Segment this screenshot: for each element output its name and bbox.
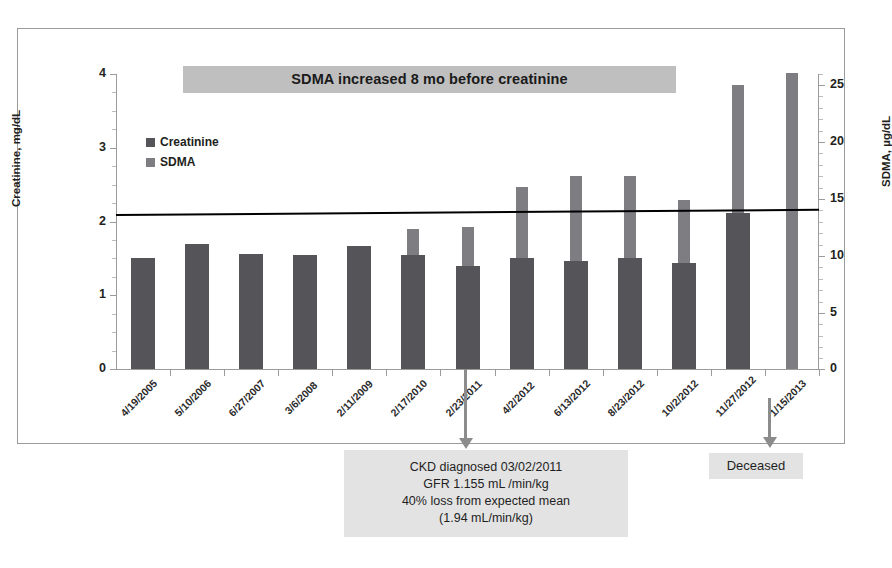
- y2-tick-label: 25: [830, 78, 856, 91]
- ckd-note-line-3: 40% loss from expected mean: [350, 493, 622, 510]
- x-axis-line: [116, 369, 819, 370]
- left-tick-0: [110, 369, 116, 370]
- right-tick-5: [819, 313, 825, 314]
- right-minor-tick: [819, 210, 823, 211]
- right-minor-tick: [819, 108, 823, 109]
- x-axis-label: 6/13/2012: [551, 379, 591, 419]
- bar-creatinine: [185, 244, 209, 369]
- right-minor-tick: [819, 245, 823, 246]
- y-tick-label: 0: [80, 362, 106, 375]
- bar-creatinine: [726, 213, 750, 369]
- right-minor-tick: [819, 131, 823, 132]
- y2-tick-label: 0: [830, 362, 856, 375]
- bar-creatinine: [672, 263, 696, 369]
- right-minor-tick: [819, 290, 823, 291]
- y-tick-label: 4: [80, 67, 106, 80]
- deceased-arrow-shaft: [768, 398, 771, 442]
- x-axis-label: 8/23/2012: [605, 379, 645, 419]
- y2-axis-title: SDMA, µg/dL: [880, 116, 892, 187]
- right-tick-25: [819, 85, 825, 86]
- bar-creatinine: [293, 255, 317, 369]
- bar-creatinine: [401, 255, 425, 369]
- right-minor-tick: [819, 358, 823, 359]
- right-minor-tick: [819, 347, 823, 348]
- right-minor-tick: [819, 336, 823, 337]
- x-axis-label: 1/15/2013: [767, 379, 807, 419]
- y2-tick-label: 20: [830, 135, 856, 148]
- x-axis-label: 2/11/2009: [334, 379, 374, 419]
- x-axis-label: 2/17/2010: [388, 379, 428, 419]
- ckd-note-line-1: CKD diagnosed 03/02/2011: [350, 459, 622, 476]
- right-tick-20: [819, 142, 825, 143]
- right-minor-tick: [819, 302, 823, 303]
- right-tick-15: [819, 199, 825, 200]
- ckd-arrow-shaft: [464, 368, 467, 444]
- bar-creatinine: [618, 258, 642, 369]
- x-axis-label: 3/6/2008: [280, 379, 320, 419]
- x-axis-label: 5/10/2006: [172, 379, 212, 419]
- right-minor-tick: [819, 233, 823, 234]
- bar-creatinine: [239, 254, 263, 369]
- deceased-note-box: Deceased: [709, 453, 803, 479]
- chart-frame: SDMA increased 8 mo before creatinine 4 …: [17, 28, 845, 444]
- right-minor-tick: [819, 267, 823, 268]
- right-minor-tick: [819, 165, 823, 166]
- bar-creatinine: [510, 258, 534, 369]
- right-tick-10: [819, 256, 825, 257]
- y-axis-title: Creatinine, mg/dL: [10, 110, 22, 207]
- ckd-note-line-2: GFR 1.155 mL /min/kg: [350, 476, 622, 493]
- right-minor-tick: [819, 119, 823, 120]
- bar-creatinine: [456, 266, 480, 369]
- bar-creatinine: [347, 246, 371, 369]
- y2-tick-label: 10: [830, 249, 856, 262]
- bar-creatinine: [131, 258, 155, 369]
- right-minor-tick: [819, 74, 823, 75]
- x-axis-labels: 4/19/20055/10/20066/27/20073/6/20082/11/…: [116, 373, 819, 443]
- right-minor-tick: [819, 176, 823, 177]
- x-axis-label: 4/19/2005: [118, 379, 158, 419]
- right-minor-tick: [819, 96, 823, 97]
- right-minor-tick: [819, 188, 823, 189]
- bar-creatinine: [564, 261, 588, 369]
- x-axis-label: 10/2/2012: [659, 379, 699, 419]
- y2-tick-label: 5: [830, 306, 856, 319]
- x-axis-label: 2/23/2011: [442, 379, 482, 419]
- right-minor-tick: [819, 222, 823, 223]
- y-tick-label: 2: [80, 215, 106, 228]
- bar-sdma: [786, 73, 798, 369]
- right-minor-tick: [819, 324, 823, 325]
- y2-tick-label: 15: [830, 192, 856, 205]
- x-tick: [819, 370, 820, 376]
- x-axis-label: 11/27/2012: [713, 379, 753, 419]
- y-tick-label: 3: [80, 141, 106, 154]
- x-axis-label: 6/27/2007: [226, 379, 266, 419]
- deceased-arrow-head: [763, 437, 777, 448]
- bars-container: [116, 74, 819, 369]
- ckd-note-line-4: (1.94 mL/min/kg): [350, 510, 622, 527]
- y-tick-label: 1: [80, 288, 106, 301]
- x-axis-label: 4/2/2012: [496, 379, 536, 419]
- right-minor-tick: [819, 279, 823, 280]
- ckd-arrow-head: [459, 438, 473, 449]
- deceased-note-label: Deceased: [709, 453, 803, 479]
- right-minor-tick: [819, 153, 823, 154]
- ckd-note-box: CKD diagnosed 03/02/2011 GFR 1.155 mL /m…: [344, 450, 628, 537]
